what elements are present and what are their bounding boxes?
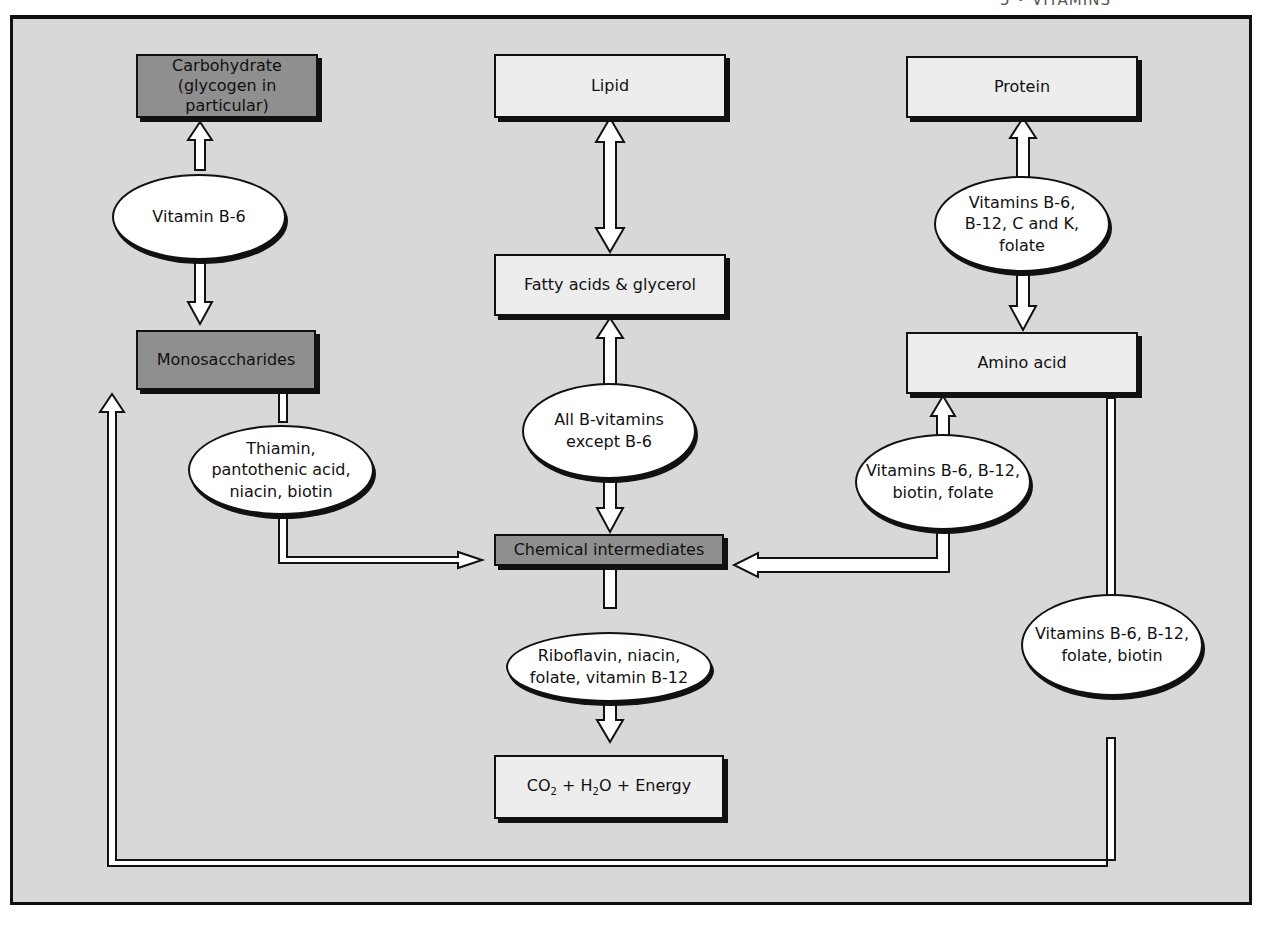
- arrow-down-icon: [188, 258, 212, 324]
- amino-acid-label: Amino acid: [977, 353, 1066, 373]
- double-arrow-icon: [596, 118, 624, 252]
- connector-stem: [279, 392, 287, 422]
- arrow-right-icon: [279, 510, 482, 568]
- all-b-vitamins-oval: All B-vitamins except B-6: [522, 383, 696, 479]
- lipid-box: Lipid: [494, 54, 726, 118]
- gluconeogenesis-vitamins-label: Vitamins B-6, B-12, folate, biotin: [1035, 623, 1189, 666]
- carbohydrate-box: Carbohydrate (glycogen in particular): [136, 54, 318, 118]
- end-products-label: CO2 + H2O + Energy: [527, 776, 691, 799]
- arrow-down-icon: [597, 478, 623, 532]
- vitamin-b6-oval: Vitamin B-6: [112, 174, 286, 260]
- chemical-intermediates-box: Chemical intermediates: [494, 534, 724, 566]
- arrow-down-icon: [1010, 272, 1036, 330]
- thiamin-label: Thiamin, pantothenic acid, niacin, bioti…: [211, 438, 350, 503]
- arrow-up-icon: [597, 318, 623, 385]
- chemical-intermediates-label: Chemical intermediates: [514, 540, 705, 560]
- amino-vitamins-oval: Vitamins B-6, B-12, biotin, folate: [855, 434, 1031, 530]
- monosaccharides-label: Monosaccharides: [157, 350, 296, 370]
- connector-stem: [604, 568, 616, 608]
- riboflavin-label: Riboflavin, niacin, folate, vitamin B-12: [530, 645, 688, 688]
- lipid-label: Lipid: [591, 76, 629, 96]
- protein-label: Protein: [994, 77, 1050, 97]
- amino-acid-box: Amino acid: [906, 332, 1138, 394]
- carbohydrate-label-line2: (glycogen in particular): [138, 76, 316, 116]
- arrow-up-icon: [931, 396, 955, 436]
- monosaccharides-box: Monosaccharides: [136, 330, 316, 390]
- arrow-down-icon: [597, 700, 623, 742]
- fatty-acids-box: Fatty acids & glycerol: [494, 254, 726, 316]
- fatty-acids-label: Fatty acids & glycerol: [524, 275, 696, 295]
- end-products-box: CO2 + H2O + Energy: [494, 755, 724, 819]
- all-b-vitamins-label: All B-vitamins except B-6: [554, 409, 664, 452]
- protein-box: Protein: [906, 56, 1138, 118]
- gluconeogenesis-vitamins-oval: Vitamins B-6, B-12, folate, biotin: [1021, 594, 1203, 696]
- protein-vitamins-label: Vitamins B-6, B-12, C and K, folate: [965, 192, 1079, 257]
- riboflavin-oval: Riboflavin, niacin, folate, vitamin B-12: [506, 632, 712, 702]
- arrow-up-icon: [188, 122, 212, 170]
- amino-vitamins-label: Vitamins B-6, B-12, biotin, folate: [866, 460, 1020, 503]
- carbohydrate-label-line1: Carbohydrate: [172, 56, 282, 76]
- arrow-up-icon: [1010, 118, 1036, 178]
- thiamin-oval: Thiamin, pantothenic acid, niacin, bioti…: [188, 425, 374, 515]
- vitamin-b6-label: Vitamin B-6: [152, 206, 245, 228]
- protein-vitamins-oval: Vitamins B-6, B-12, C and K, folate: [934, 176, 1110, 272]
- arrow-left-icon: [734, 530, 949, 577]
